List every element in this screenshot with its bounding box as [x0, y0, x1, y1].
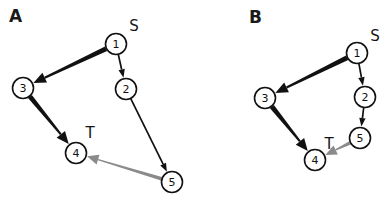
node-label-2: 2 — [362, 91, 369, 104]
edge-shaft-1-to-2 — [118, 55, 123, 70]
terminal-label-s: S — [129, 17, 139, 35]
panel-a-graph: 12345ST — [13, 17, 183, 193]
arrowhead-2-to-5 — [359, 118, 365, 127]
node-label-5: 5 — [357, 132, 364, 145]
node-3[interactable]: 3 — [13, 78, 34, 99]
node-2[interactable]: 2 — [116, 79, 137, 100]
edge-shaft-3-to-4 — [270, 105, 301, 142]
node-1[interactable]: 1 — [106, 34, 127, 55]
edge-shaft-2-to-5 — [362, 108, 365, 118]
node-label-2: 2 — [123, 83, 130, 96]
edge-shaft-3-to-4 — [28, 95, 62, 135]
arrowhead-1-to-2 — [358, 77, 364, 86]
edge-shaft-5-to-4 — [335, 141, 351, 150]
node-4[interactable]: 4 — [66, 143, 87, 164]
arrowhead-1-to-2 — [119, 69, 125, 78]
panel-label-b: B — [249, 9, 262, 26]
figure-canvas: 12345ST12345ST A B — [0, 0, 392, 207]
edge-shaft-1-to-2 — [358, 64, 362, 78]
edge-shaft-5-to-4 — [98, 159, 162, 181]
node-label-4: 4 — [73, 147, 80, 160]
node-5[interactable]: 5 — [350, 128, 371, 149]
node-label-1: 1 — [113, 38, 120, 51]
node-2[interactable]: 2 — [355, 87, 376, 108]
panel-b-graph: 12345ST — [255, 27, 380, 171]
terminal-label-t: T — [84, 124, 95, 142]
panel-label-a: A — [9, 8, 22, 25]
network-diagram: 12345ST12345ST — [0, 0, 392, 207]
node-1[interactable]: 1 — [347, 43, 368, 64]
node-label-5: 5 — [169, 176, 176, 189]
arrowhead-2-to-5 — [160, 163, 167, 172]
node-3[interactable]: 3 — [255, 88, 276, 109]
node-5[interactable]: 5 — [162, 172, 183, 193]
terminal-label-t: T — [323, 135, 334, 153]
terminal-label-s: S — [370, 27, 380, 45]
node-label-3: 3 — [20, 82, 27, 95]
node-label-3: 3 — [262, 92, 269, 105]
edge-shaft-1-to-3 — [286, 56, 348, 89]
node-label-1: 1 — [354, 47, 361, 60]
arrowhead-5-to-4 — [87, 155, 99, 165]
edge-shaft-2-to-5 — [130, 98, 164, 164]
edge-shaft-1-to-3 — [44, 46, 107, 78]
node-4[interactable]: 4 — [305, 150, 326, 171]
node-label-4: 4 — [312, 154, 319, 167]
